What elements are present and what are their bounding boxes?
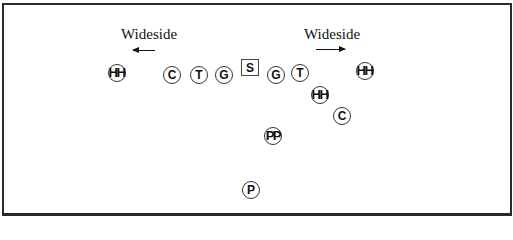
wideside-label-left: Wideside	[121, 27, 177, 42]
player-t-left: T	[190, 66, 208, 84]
snapper-label: S	[246, 61, 254, 75]
player-t-right: T	[291, 64, 309, 82]
player-pp: PP	[264, 127, 282, 145]
player-c-right: C	[333, 107, 351, 125]
player-g-left: G	[215, 66, 233, 84]
snapper-box: S	[241, 59, 259, 76]
player-c-left: C	[163, 66, 181, 84]
player-hh-mid: HH	[311, 86, 329, 104]
player-g-right: G	[267, 66, 285, 84]
player-hh-left: HH	[108, 64, 126, 82]
wideside-label-right: Wideside	[304, 27, 360, 42]
arrow-left-icon	[133, 50, 155, 51]
arrow-right-icon	[316, 49, 345, 50]
player-hh-right: HH	[356, 62, 374, 80]
player-p: P	[242, 181, 260, 199]
